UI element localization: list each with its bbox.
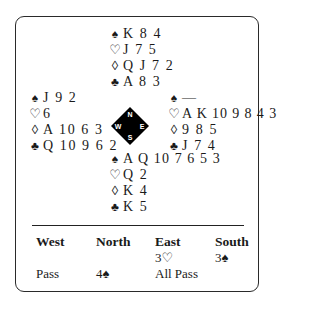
bid-cell: 4♠ xyxy=(96,266,109,282)
compass-icon: N E S W xyxy=(111,107,149,145)
spade-icon: ♠ xyxy=(29,90,41,106)
bid-cell: 3♠ xyxy=(215,250,228,266)
west-hearts: 6 xyxy=(43,106,52,122)
heart-icon: ♡ xyxy=(109,42,121,58)
bidding-header-north: North xyxy=(96,234,131,250)
club-icon: ♣ xyxy=(109,74,121,90)
bid-cell: All Pass xyxy=(155,266,198,282)
diamond-icon: ◊ xyxy=(168,122,180,138)
spade-icon: ♠ xyxy=(168,90,180,106)
diamond-icon: ◊ xyxy=(109,58,121,74)
east-hearts: A K 10 9 8 4 3 xyxy=(182,106,277,122)
south-spades: A Q 10 7 6 5 3 xyxy=(123,151,221,167)
compass-south-label: S xyxy=(128,134,133,141)
diamond-icon: ◊ xyxy=(109,183,121,199)
heart-icon: ♡ xyxy=(109,167,121,183)
heart-icon: ♡ xyxy=(29,106,41,122)
bidding-header-south: South xyxy=(215,234,249,250)
north-spades: K 8 4 xyxy=(123,26,162,42)
compass-west-label: W xyxy=(115,123,122,130)
bid-cell: Pass xyxy=(36,266,59,282)
east-spades: — xyxy=(182,90,198,106)
club-icon: ♣ xyxy=(109,199,121,215)
west-diamonds: A 10 6 3 xyxy=(43,122,104,138)
bid-cell: 3♡ xyxy=(155,250,173,266)
compass-east-label: E xyxy=(140,123,145,130)
south-diamonds: K 4 xyxy=(123,183,148,199)
west-clubs: Q 10 9 6 2 xyxy=(43,138,118,154)
bidding-header-west: West xyxy=(36,234,65,250)
bidding-header-east: East xyxy=(155,234,181,250)
compass-north-label: N xyxy=(127,111,132,118)
north-clubs: A 8 3 xyxy=(123,74,161,90)
heart-icon: ♡ xyxy=(168,106,180,122)
spade-icon: ♠ xyxy=(109,26,121,42)
spade-icon: ♠ xyxy=(109,151,121,167)
east-diamonds: 9 8 5 xyxy=(182,122,218,138)
club-icon: ♣ xyxy=(29,138,41,154)
north-diamonds: Q J 7 2 xyxy=(123,58,174,74)
south-clubs: K 5 xyxy=(123,199,148,215)
south-hearts: Q 2 xyxy=(123,167,148,183)
north-hearts: J 7 5 xyxy=(123,42,157,58)
west-spades: J 9 2 xyxy=(43,90,77,106)
divider xyxy=(32,225,244,226)
diamond-icon: ◊ xyxy=(29,122,41,138)
